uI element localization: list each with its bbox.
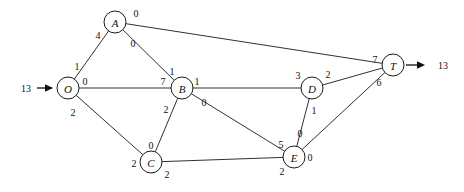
flow-arrows-layer [37, 61, 425, 92]
diagram-canvas: OABCDET 14072200113052022102706 1313 [0, 0, 464, 192]
edge-label-c-e-near-c: 2 [165, 169, 170, 180]
node-e[interactable]: E [283, 146, 305, 168]
edge-label-o-a-near-o: 1 [75, 61, 80, 72]
node-t-label: T [390, 60, 397, 72]
node-d[interactable]: D [301, 77, 323, 99]
edges-layer [74, 24, 385, 162]
edge-label-b-c-near-c: 0 [149, 140, 154, 151]
edge-o-a [74, 31, 108, 79]
source-arrow-head [45, 84, 53, 92]
network-graph: OABCDET 14072200113052022102706 1313 [0, 0, 464, 192]
node-c[interactable]: C [140, 151, 162, 173]
node-e-label: E [290, 152, 298, 164]
edge-label-a-t-near-a: 0 [134, 8, 139, 19]
node-a[interactable]: A [104, 11, 126, 33]
sink-flow-label: 13 [438, 60, 448, 71]
edge-label-d-e-near-d: 1 [312, 105, 317, 116]
edge-label-o-a-near-a: 4 [96, 30, 101, 41]
edge-label-e-t-near-e: 0 [308, 152, 313, 163]
edge-label-o-c-near-o: 2 [71, 107, 76, 118]
node-d-label: D [307, 83, 316, 95]
node-b[interactable]: B [171, 77, 193, 99]
node-c-label: C [147, 157, 155, 169]
sink-arrow-head [417, 61, 425, 69]
edge-label-d-t-near-t: 7 [373, 54, 378, 65]
edge-o-c [76, 95, 143, 154]
edge-labels-layer: 14072200113052022102706 [71, 8, 382, 180]
edge-label-b-e-near-b: 0 [202, 97, 207, 108]
node-b-label: B [179, 83, 186, 95]
edge-label-c-e-near-e: 2 [280, 166, 285, 177]
edge-label-o-b-near-o: 0 [83, 76, 88, 87]
edge-label-b-e-near-e: 5 [279, 139, 284, 150]
node-t[interactable]: T [382, 54, 404, 76]
node-o-label: O [64, 83, 72, 95]
nodes-layer: OABCDET [57, 11, 404, 173]
edge-label-b-d-near-d: 3 [296, 70, 301, 81]
edge-label-a-b-near-b: 1 [170, 66, 175, 77]
edge-label-o-c-near-c: 2 [132, 158, 137, 169]
edge-label-b-d-near-b: 1 [195, 76, 200, 87]
edge-d-e [297, 99, 309, 147]
edge-d-t [323, 68, 383, 85]
edge-label-b-c-near-b: 2 [164, 104, 169, 115]
edge-label-o-b-near-b: 7 [161, 76, 166, 87]
source-flow-label: 13 [21, 83, 31, 94]
edge-label-d-t-near-d: 2 [326, 69, 331, 80]
edge-c-e [162, 157, 283, 161]
node-o[interactable]: O [57, 77, 79, 99]
edge-label-d-e-near-e: 0 [298, 128, 303, 139]
edge-a-t [126, 24, 382, 64]
edge-label-e-t-near-t: 6 [377, 77, 382, 88]
node-a-label: A [111, 17, 119, 29]
edge-label-a-b-near-a: 0 [131, 38, 136, 49]
